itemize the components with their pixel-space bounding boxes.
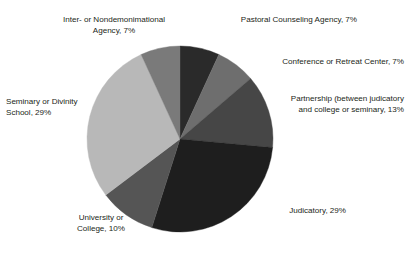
pie-chart-svg xyxy=(0,0,406,257)
pie-slice-group xyxy=(87,46,273,232)
pie-chart-figure: Inter- or Nondemonimational Agency, 7% P… xyxy=(0,0,406,257)
